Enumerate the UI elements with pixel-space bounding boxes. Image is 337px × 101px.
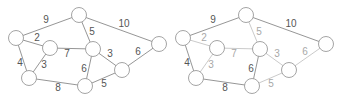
edge-weight-label: 9 — [43, 14, 49, 25]
edge-weight-label: 2 — [201, 32, 207, 43]
edge-weight-label: 8 — [222, 82, 228, 93]
edge-weight-label: 5 — [268, 78, 274, 89]
node-d — [239, 8, 254, 23]
node-c — [189, 71, 204, 86]
edge-weight-label: 4 — [184, 57, 190, 68]
node-e — [253, 42, 268, 57]
node-g — [282, 63, 297, 78]
graph-canvas: 92437510638569243751063856 — [0, 0, 337, 101]
node-g — [115, 63, 130, 78]
node-a — [176, 31, 191, 46]
edge-weight-label: 2 — [34, 32, 40, 43]
node-f — [78, 79, 93, 94]
edge-weight-label: 10 — [285, 18, 297, 29]
edge-weight-label: 6 — [248, 63, 254, 74]
graph-figure: 92437510638569243751063856 — [0, 0, 337, 101]
result-graph: 9243751063856 — [176, 8, 334, 94]
node-h — [152, 37, 167, 52]
node-h — [319, 37, 334, 52]
node-b — [210, 41, 225, 56]
edge-weight-label: 6 — [302, 46, 308, 57]
node-e — [86, 42, 101, 57]
edge-weight-label: 10 — [118, 18, 130, 29]
edge-weight-label: 7 — [231, 48, 237, 59]
edge-weight-label: 4 — [17, 57, 23, 68]
edge-weight-label: 8 — [55, 82, 61, 93]
full-graph: 9243751063856 — [9, 8, 167, 94]
node-f — [245, 79, 260, 94]
edge-weight-label: 3 — [208, 59, 214, 70]
edge-weight-label: 5 — [89, 26, 95, 37]
edge-weight-label: 7 — [64, 48, 70, 59]
edge-weight-label: 3 — [41, 59, 47, 70]
edge-weight-label: 9 — [210, 14, 216, 25]
edge-weight-label: 6 — [81, 63, 87, 74]
edge-weight-label: 5 — [101, 78, 107, 89]
node-b — [43, 41, 58, 56]
node-d — [72, 8, 87, 23]
edge-weight-label: 6 — [135, 46, 141, 57]
edge-weight-label: 5 — [256, 26, 262, 37]
edge-weight-label: 3 — [274, 48, 280, 59]
edge-weight-label: 3 — [107, 48, 113, 59]
node-c — [22, 71, 37, 86]
node-a — [9, 31, 24, 46]
